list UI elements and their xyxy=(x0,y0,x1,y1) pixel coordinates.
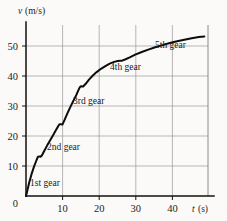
y-axis-symbol: v xyxy=(18,6,23,16)
y-axis-unit: (m/s) xyxy=(25,6,45,17)
x-axis-symbol: t xyxy=(192,204,195,214)
annotation-4th-gear: 4th gear xyxy=(110,62,142,72)
annotation-3rd-gear: 3rd gear xyxy=(73,96,105,106)
y-tick-label-30: 30 xyxy=(8,101,19,112)
velocity-time-graph-figure: 0 10 20 30 40 50 10 20 30 40 v (m/s) t (… xyxy=(0,0,227,221)
vertical-gridlines xyxy=(63,25,173,196)
y-tick-label-20: 20 xyxy=(8,131,19,142)
x-tick-label-20: 20 xyxy=(94,203,105,214)
y-tick-label-0: 0 xyxy=(13,198,18,209)
speed-curve xyxy=(26,36,204,196)
y-tick-label-50: 50 xyxy=(8,41,19,52)
x-axis-unit: (s) xyxy=(198,204,208,215)
x-axis-title: t (s) xyxy=(192,204,208,215)
chart-canvas: 0 10 20 30 40 50 10 20 30 40 v (m/s) t (… xyxy=(0,0,227,221)
annotation-5th-gear: 5th gear xyxy=(155,40,187,50)
x-tick-label-40: 40 xyxy=(167,203,178,214)
y-tick-labels: 0 10 20 30 40 50 xyxy=(8,41,19,209)
annotation-2nd-gear: 2nd gear xyxy=(47,142,81,152)
x-tick-label-30: 30 xyxy=(131,203,142,214)
y-axis-title: v (m/s) xyxy=(18,6,45,17)
y-tick-label-40: 40 xyxy=(8,71,19,82)
x-tick-label-10: 10 xyxy=(57,203,68,214)
x-tick-labels: 10 20 30 40 xyxy=(57,203,177,214)
annotation-1st-gear: 1st gear xyxy=(30,178,61,188)
y-tick-label-10: 10 xyxy=(8,161,19,172)
